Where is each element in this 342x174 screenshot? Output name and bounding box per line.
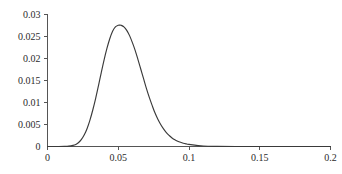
y-tick-label: 0.02 (23, 53, 41, 64)
x-tick-label: 0.15 (251, 152, 269, 163)
y-axis: 00.0050.010.0150.020.0250.03 (18, 9, 48, 152)
y-tick-label: 0.005 (18, 119, 41, 130)
y-tick-label: 0 (36, 141, 41, 152)
y-tick-label: 0.025 (18, 31, 41, 42)
chart-figure: 00.0050.010.0150.020.0250.03 00.050.10.1… (0, 0, 342, 174)
y-tick-label: 0.015 (18, 75, 41, 86)
x-tick-label: 0.05 (110, 152, 128, 163)
x-tick-label: 0 (45, 152, 50, 163)
chart-canvas: 00.0050.010.0150.020.0250.03 00.050.10.1… (0, 0, 342, 174)
x-axis: 00.050.10.150.2 (45, 147, 337, 163)
y-tick-label: 0.01 (23, 97, 41, 108)
y-tick-label: 0.03 (23, 9, 41, 20)
x-tick-label: 0.2 (324, 152, 337, 163)
data-curve (48, 25, 331, 146)
data-series-group (48, 25, 331, 146)
x-tick-label: 0.1 (183, 152, 196, 163)
